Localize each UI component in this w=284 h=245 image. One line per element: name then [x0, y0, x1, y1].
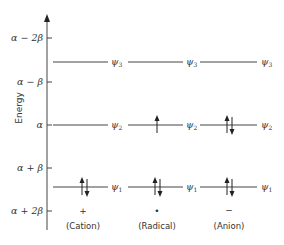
- molecular-orbital-diagram: α − 2β α − β α α + β α + 2β Energy ψ3 ψ3…: [0, 0, 284, 245]
- radical-dot: •: [154, 206, 159, 216]
- species-labels: + • − (Cation) (Radical) (Anion): [66, 205, 244, 231]
- anion-label: (Anion): [214, 221, 245, 231]
- psi3-label-cation: ψ3: [111, 56, 122, 68]
- psi1-label-anion: ψ1: [261, 181, 272, 193]
- tick-label-alpha-minus-beta: α − β: [17, 76, 43, 87]
- tick-label-alpha-plus-2beta: α + 2β: [11, 205, 43, 216]
- cation-charge: +: [79, 206, 87, 216]
- orbital-psi1: ψ1 ψ1 ψ1: [53, 177, 272, 197]
- orbital-psi3: ψ3 ψ3 ψ3: [53, 56, 272, 68]
- cation-label: (Cation): [66, 221, 100, 231]
- psi1-label-radical: ψ1: [186, 181, 197, 193]
- psi2-label-anion: ψ2: [261, 119, 272, 131]
- tick-label-alpha: α: [37, 119, 44, 130]
- axis-arrow-icon: [44, 14, 50, 22]
- axis-title: Energy: [14, 92, 24, 124]
- psi3-label-anion: ψ3: [261, 56, 272, 68]
- psi1-label-cation: ψ1: [111, 181, 122, 193]
- electron-up-icon: [155, 115, 160, 133]
- psi2-label-cation: ψ2: [111, 119, 122, 131]
- orbital-psi2: ψ2 ψ2 ψ2: [53, 115, 272, 135]
- anion-charge: −: [225, 205, 233, 215]
- energy-axis: α − 2β α − β α α + β α + 2β Energy: [11, 14, 52, 230]
- tick-label-alpha-plus-beta: α + β: [17, 162, 43, 173]
- psi3-label-radical: ψ3: [186, 56, 197, 68]
- radical-label: (Radical): [138, 221, 176, 231]
- psi2-label-radical: ψ2: [186, 119, 197, 131]
- tick-label-alpha-minus-2beta: α − 2β: [11, 32, 43, 43]
